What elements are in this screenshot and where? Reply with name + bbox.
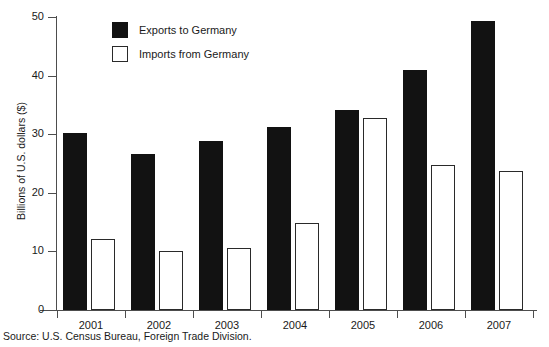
y-axis-title: Billions of U.S. dollars ($) <box>15 61 27 261</box>
y-tick-label-50: 50 <box>14 11 44 22</box>
bar-imports-2003 <box>227 248 251 310</box>
source-note: Source: U.S. Census Bureau, Foreign Trad… <box>3 330 252 342</box>
x-tick-boundary-4 <box>329 311 330 318</box>
y-axis-line <box>56 16 57 311</box>
y-tick-0 <box>48 310 56 311</box>
x-tick-boundary-6 <box>465 311 466 318</box>
legend-swatch-imports-icon <box>112 46 128 62</box>
x-tick-label-2005: 2005 <box>328 320 398 331</box>
x-tick-boundary-2 <box>193 311 194 318</box>
bar-exports-2006 <box>403 70 427 310</box>
y-tick-label-20: 20 <box>14 187 44 198</box>
bar-exports-2003 <box>199 141 223 310</box>
bar-imports-2006 <box>431 165 455 310</box>
x-tick-boundary-3 <box>261 311 262 318</box>
x-tick-label-2004: 2004 <box>260 320 330 331</box>
y-tick-label-10: 10 <box>14 245 44 256</box>
y-tick-10 <box>48 251 56 252</box>
x-tick-label-2006: 2006 <box>396 320 466 331</box>
x-tick-boundary-1 <box>125 311 126 318</box>
bar-imports-2005 <box>363 118 387 310</box>
chart-legend: Exports to Germany Imports from Germany <box>112 18 312 66</box>
y-tick-30 <box>48 134 56 135</box>
legend-swatch-exports-icon <box>112 22 128 38</box>
bar-imports-2001 <box>91 239 115 310</box>
y-tick-label-40: 40 <box>14 70 44 81</box>
x-tick-boundary-0 <box>57 311 58 318</box>
bar-exports-2004 <box>267 127 291 310</box>
chart-title-cutoff <box>130 0 460 3</box>
bar-imports-2004 <box>295 223 319 310</box>
x-tick-boundary-5 <box>397 311 398 318</box>
y-tick-label-0: 0 <box>14 304 44 315</box>
x-axis-line <box>40 310 537 311</box>
bar-imports-2007 <box>499 171 523 310</box>
legend-label-exports: Exports to Germany <box>139 24 237 36</box>
y-tick-40 <box>48 76 56 77</box>
y-tick-50 <box>48 17 56 18</box>
bar-exports-2002 <box>131 154 155 310</box>
legend-item-imports: Imports from Germany <box>112 42 312 66</box>
legend-label-imports: Imports from Germany <box>139 48 249 60</box>
y-tick-label-30: 30 <box>14 128 44 139</box>
chart-figure: Billions of U.S. dollars ($) 01020304050… <box>0 0 549 347</box>
bar-exports-2005 <box>335 110 359 310</box>
bar-imports-2002 <box>159 251 183 310</box>
x-tick-boundary-7 <box>533 311 534 318</box>
legend-item-exports: Exports to Germany <box>112 18 312 42</box>
y-tick-20 <box>48 193 56 194</box>
x-tick-label-2007: 2007 <box>464 320 534 331</box>
bar-exports-2007 <box>471 21 495 310</box>
bar-exports-2001 <box>63 133 87 310</box>
